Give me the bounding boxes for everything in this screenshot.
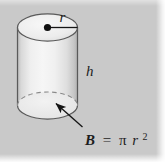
- height-label: h: [86, 63, 94, 79]
- geometry-figure-cylinder: r h B = π r 2: [0, 0, 165, 162]
- base-area-formula: B = π r 2: [84, 131, 147, 148]
- cylinder-top-face: [18, 14, 78, 41]
- svg-text:B = π: B = π r 2: [84, 131, 147, 148]
- radius-label: r: [60, 9, 66, 25]
- cylinder-diagram-svg: r h B = π r 2: [0, 0, 165, 162]
- center-point-dot: [44, 24, 51, 31]
- formula-radius: r: [132, 132, 138, 148]
- formula-pi: π: [119, 132, 127, 148]
- formula-exponent: 2: [142, 131, 147, 142]
- formula-equals: =: [103, 132, 111, 148]
- formula-variable-b: B: [84, 132, 95, 148]
